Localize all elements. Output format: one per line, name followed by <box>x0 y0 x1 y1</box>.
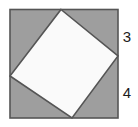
segment-label-4: 4 <box>123 84 131 101</box>
geometry-figure: 3 4 <box>0 0 138 127</box>
geometry-diagram: 3 4 <box>0 0 138 127</box>
segment-label-3: 3 <box>123 28 131 45</box>
